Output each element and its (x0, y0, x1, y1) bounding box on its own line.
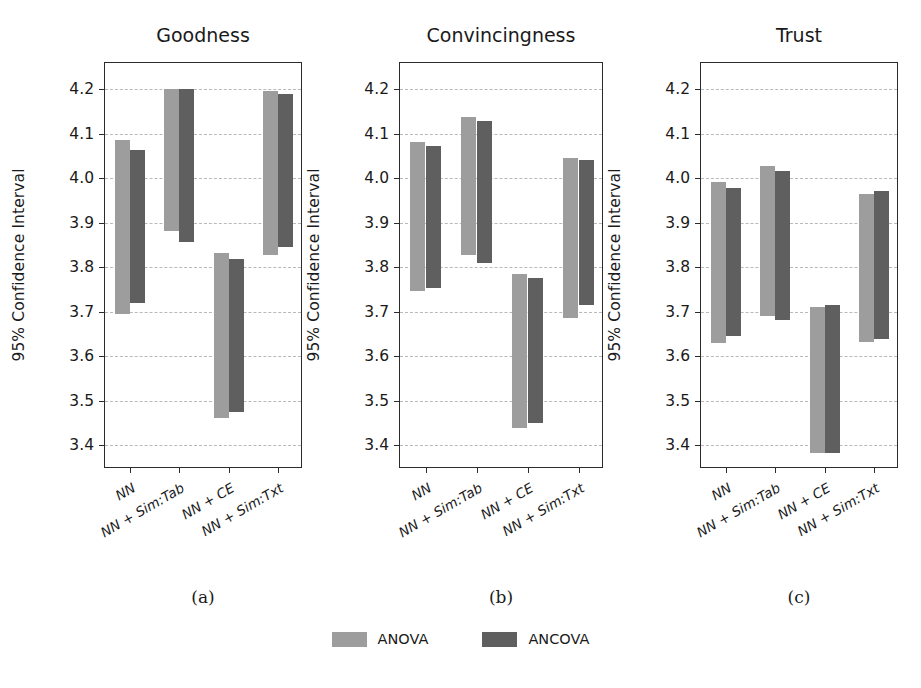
y-axis-tick (695, 312, 701, 313)
confidence-interval-bar (563, 158, 578, 318)
panel-title: Convincingness (399, 24, 603, 46)
y-axis-tick-label: 3.5 (665, 392, 690, 410)
confidence-interval-bar (874, 191, 889, 339)
x-axis-tick-label: NN + Sim:Txt (199, 476, 292, 539)
confidence-interval-bar (179, 89, 194, 242)
confidence-interval-bar (229, 259, 244, 412)
x-axis-tick (775, 467, 776, 473)
confidence-interval-bar (512, 274, 527, 428)
y-gridline (701, 356, 897, 357)
y-axis-label: 95% Confidence Interval (606, 168, 624, 361)
plot-area: 3.43.53.63.73.83.94.04.14.2NNNN + Sim:Ta… (104, 62, 302, 468)
y-axis-tick (99, 134, 105, 135)
y-axis-tick (99, 178, 105, 179)
y-gridline (400, 356, 602, 357)
y-axis-tick-label: 4.1 (69, 125, 94, 143)
y-axis-tick-label: 3.4 (364, 436, 389, 454)
x-axis-tick-label-text: NN + Sim:Txt (199, 476, 292, 539)
x-axis-tick-label-text: NN + Sim:Txt (795, 476, 888, 539)
y-axis-tick (99, 223, 105, 224)
x-axis-tick (278, 467, 279, 473)
x-axis-tick (229, 467, 230, 473)
y-axis-tick-label: 4.0 (665, 169, 690, 187)
y-axis-tick (99, 445, 105, 446)
confidence-interval-bar (859, 194, 874, 342)
confidence-interval-bar (115, 140, 130, 314)
confidence-interval-bar (810, 307, 825, 453)
y-axis-tick-label: 3.9 (69, 214, 94, 232)
y-axis-tick (394, 134, 400, 135)
y-axis-tick-label: 3.8 (665, 258, 690, 276)
confidence-interval-bar (410, 142, 425, 291)
y-gridline (701, 89, 897, 90)
y-gridline (400, 401, 602, 402)
y-gridline (105, 401, 301, 402)
y-axis-label: 95% Confidence Interval (305, 168, 323, 361)
chart-panel: Goodness3.43.53.63.73.83.94.04.14.2NNNN … (104, 0, 302, 688)
y-axis-tick-label: 3.7 (665, 303, 690, 321)
confidence-interval-bar (461, 117, 476, 255)
x-axis-tick-label: NN (112, 476, 144, 503)
confidence-interval-bar (164, 89, 179, 231)
confidence-interval-bar (760, 166, 775, 316)
confidence-interval-bar (130, 150, 145, 303)
chart-panel: Convincingness3.43.53.63.73.83.94.04.14.… (399, 0, 603, 688)
x-axis-tick (179, 467, 180, 473)
x-axis-tick-label: NN + Sim:Tab (395, 476, 490, 540)
y-axis-tick (394, 223, 400, 224)
confidence-interval-bar (726, 188, 741, 336)
y-axis-tick-label: 4.1 (665, 125, 690, 143)
y-axis-tick-label: 3.4 (665, 436, 690, 454)
subplot-caption: (c) (700, 587, 898, 607)
x-axis-tick-label: NN + Sim:Txt (499, 476, 592, 539)
y-axis-tick (394, 267, 400, 268)
y-gridline (701, 445, 897, 446)
x-axis-tick-label: NN (408, 476, 440, 503)
legend: ANOVAANCOVA (0, 631, 921, 647)
y-axis-tick-label: 3.9 (364, 214, 389, 232)
x-axis-tick (825, 467, 826, 473)
subplot-caption: (b) (399, 587, 603, 607)
legend-item: ANOVA (332, 631, 429, 647)
y-gridline (701, 134, 897, 135)
x-axis-tick-label-text: NN (708, 476, 740, 503)
confidence-interval-bar (477, 121, 492, 263)
y-gridline (400, 89, 602, 90)
confidence-interval-bar (528, 278, 543, 423)
x-axis-tick (528, 467, 529, 473)
legend-item: ANCOVA (482, 631, 589, 647)
confidence-interval-bar (278, 94, 293, 247)
legend-swatch (482, 632, 517, 647)
y-axis-tick (695, 89, 701, 90)
panel-title: Goodness (104, 24, 302, 46)
subplot-caption: (a) (104, 587, 302, 607)
y-axis-tick (99, 267, 105, 268)
confidence-interval-bar (263, 91, 278, 256)
y-axis-tick (394, 356, 400, 357)
y-axis-tick-label: 3.7 (69, 303, 94, 321)
y-axis-label: 95% Confidence Interval (10, 168, 28, 361)
y-axis-tick (695, 356, 701, 357)
y-gridline (701, 178, 897, 179)
x-axis-tick (726, 467, 727, 473)
legend-label: ANCOVA (528, 631, 589, 647)
y-axis-tick-label: 4.2 (69, 80, 94, 98)
confidence-interval-bar (214, 253, 229, 419)
y-axis-tick (695, 134, 701, 135)
y-axis-tick (394, 178, 400, 179)
y-axis-tick-label: 3.6 (364, 347, 389, 365)
x-axis-tick-label-text: NN + Sim:Txt (499, 476, 592, 539)
y-gridline (400, 134, 602, 135)
y-axis-tick (695, 401, 701, 402)
plot-area: 3.43.53.63.73.83.94.04.14.2NNNN + Sim:Ta… (700, 62, 898, 468)
chart-panel: Trust3.43.53.63.73.83.94.04.14.2NNNN + S… (700, 0, 898, 688)
y-axis-tick-label: 4.2 (665, 80, 690, 98)
x-axis-tick (579, 467, 580, 473)
x-axis-tick-label-text: NN (112, 476, 144, 503)
y-axis-tick (695, 267, 701, 268)
y-gridline (105, 312, 301, 313)
y-axis-tick (99, 89, 105, 90)
confidence-interval-bar (775, 171, 790, 320)
y-axis-tick (99, 312, 105, 313)
y-axis-tick-label: 3.8 (69, 258, 94, 276)
